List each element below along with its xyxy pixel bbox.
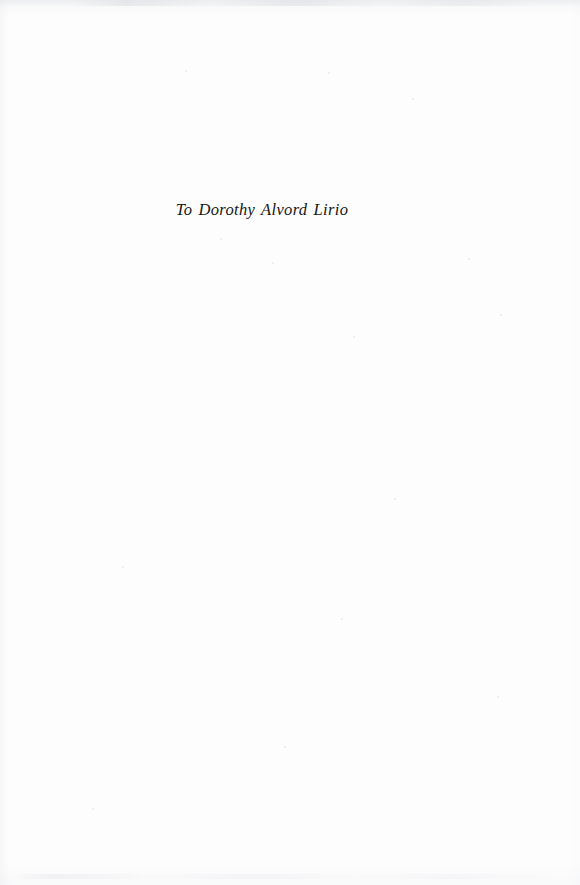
scan-speck	[272, 262, 274, 264]
dedication-text: To Dorothy Alvord Lirio	[176, 200, 349, 220]
scan-speck	[394, 498, 396, 500]
scan-speck	[122, 566, 124, 568]
scan-speck	[185, 70, 187, 72]
dedication-block: To Dorothy Alvord Lirio	[0, 200, 580, 220]
scan-speck	[500, 314, 502, 316]
paper-tone-overlay	[0, 0, 580, 885]
scan-speck	[284, 746, 286, 748]
scan-speck	[341, 618, 343, 620]
scan-speck	[328, 72, 330, 74]
bottom-edge-scan-smudge	[10, 874, 550, 879]
scan-speck	[92, 808, 94, 810]
scan-speck	[353, 336, 355, 338]
dedication-page: To Dorothy Alvord Lirio	[0, 0, 580, 885]
scan-speck	[220, 238, 222, 240]
scan-speck	[468, 258, 470, 260]
scan-speck	[412, 98, 414, 100]
top-edge-scan-smudge	[70, 0, 540, 6]
scan-speck	[497, 696, 499, 698]
